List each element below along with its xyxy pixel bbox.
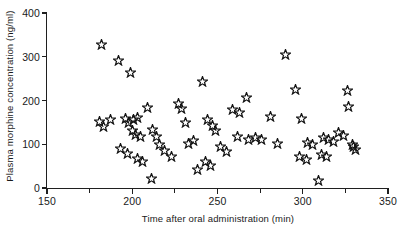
data-point-marker: [132, 112, 143, 123]
y-tick-label-wrap: 200: [2, 95, 40, 107]
y-tick-mark: [42, 100, 47, 101]
data-point-marker: [128, 114, 139, 125]
data-point-marker: [210, 125, 221, 136]
data-point-marker: [180, 117, 191, 128]
data-point-marker: [192, 164, 203, 175]
data-point-marker: [243, 134, 254, 145]
data-point-marker: [207, 120, 218, 131]
data-point-marker: [122, 148, 133, 159]
data-point-marker: [294, 151, 305, 162]
x-tick-mark-major: [387, 189, 388, 195]
data-point-marker: [272, 138, 283, 149]
data-point-marker: [316, 149, 327, 160]
x-tick-label: 200: [112, 195, 152, 207]
y-tick-label-wrap: 0: [2, 182, 40, 194]
data-point-marker: [166, 151, 177, 162]
x-tick-label: 250: [198, 195, 238, 207]
data-point-marker: [147, 124, 158, 135]
x-tick-mark-minor: [345, 189, 346, 193]
data-point-marker: [256, 134, 267, 145]
data-point-marker: [188, 135, 199, 146]
y-tick-mark: [42, 144, 47, 145]
data-point-marker: [265, 111, 276, 122]
data-point-marker: [338, 130, 349, 141]
data-point-marker: [123, 117, 134, 128]
data-point-marker: [113, 55, 124, 66]
data-point-marker: [115, 143, 126, 154]
y-tick-label: 300: [7, 51, 40, 63]
data-point-marker: [135, 131, 146, 142]
data-point-marker: [350, 144, 361, 155]
x-tick-mark-major: [302, 189, 303, 195]
y-tick-mark: [42, 56, 47, 57]
data-point-marker: [98, 121, 109, 132]
data-point-marker: [290, 84, 301, 95]
x-tick-mark-minor: [260, 189, 261, 193]
data-point-marker: [313, 175, 324, 186]
data-point-marker: [348, 141, 359, 152]
data-point-marker: [130, 129, 141, 140]
data-point-marker: [343, 101, 354, 112]
data-point-marker: [142, 102, 153, 113]
x-tick-label: 150: [27, 195, 67, 207]
data-point-marker: [137, 156, 148, 167]
data-point-marker: [202, 114, 213, 125]
data-point-marker: [301, 154, 312, 165]
data-point-marker: [154, 139, 165, 150]
data-point-marker: [151, 131, 162, 142]
data-point-marker: [250, 132, 261, 143]
y-tick-label: 400: [7, 7, 40, 19]
x-tick-label: 350: [368, 195, 402, 207]
x-tick-mark-major: [46, 189, 47, 195]
data-point-marker: [215, 141, 226, 152]
y-tick-label: 100: [7, 138, 40, 150]
y-tick-label-wrap: 100: [2, 138, 40, 150]
data-point-marker: [307, 139, 318, 150]
x-tick-label: 300: [283, 195, 323, 207]
data-point-marker: [221, 146, 232, 157]
plot-area: [47, 13, 388, 188]
data-point-marker: [227, 104, 238, 115]
y-tick-label-wrap: 400: [2, 7, 40, 19]
x-tick-mark-minor: [174, 189, 175, 193]
y-tick-label: 200: [7, 95, 40, 107]
data-point-marker: [234, 107, 245, 118]
data-point-marker: [96, 39, 107, 50]
data-point-marker: [183, 138, 194, 149]
data-point-marker: [127, 125, 138, 136]
data-point-marker: [342, 85, 353, 96]
data-point-marker: [333, 127, 344, 138]
data-point-marker: [318, 132, 329, 143]
data-point-marker: [132, 153, 143, 164]
data-point-marker: [323, 134, 334, 145]
data-point-marker: [347, 139, 358, 150]
data-point-marker: [302, 137, 313, 148]
x-tick-mark-major: [217, 189, 218, 195]
data-point-marker: [197, 76, 208, 87]
data-point-marker: [173, 98, 184, 109]
data-point-marker: [146, 173, 157, 184]
x-tick-mark-major: [132, 189, 133, 195]
x-tick-mark-minor: [89, 189, 90, 193]
data-point-marker: [159, 145, 170, 156]
data-point-marker: [328, 136, 339, 147]
data-point-marker: [296, 113, 307, 124]
y-tick-label-wrap: 300: [2, 51, 40, 63]
data-point-marker: [232, 131, 243, 142]
data-point-marker: [94, 116, 105, 127]
scatter-plot-figure: Plasma morphine concentration (ng/ml) 01…: [0, 0, 402, 232]
y-tick-label: 0: [7, 182, 40, 194]
x-axis-title: Time after oral administration (min): [47, 213, 389, 224]
data-point-marker: [241, 92, 252, 103]
data-point-marker: [200, 156, 211, 167]
data-point-marker: [176, 103, 187, 114]
data-point-marker: [125, 67, 136, 78]
data-point-marker: [120, 113, 131, 124]
y-tick-mark: [42, 12, 47, 13]
data-point-marker: [105, 114, 116, 125]
data-point-marker: [280, 49, 291, 60]
data-point-marker: [205, 160, 216, 171]
data-point-marker: [321, 151, 332, 162]
